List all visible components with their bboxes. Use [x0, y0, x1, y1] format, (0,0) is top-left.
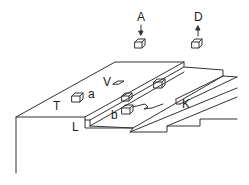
label-a: a	[88, 88, 95, 100]
label-K: K	[182, 98, 190, 110]
label-b: b	[111, 109, 118, 121]
block-b	[122, 108, 130, 114]
label-L: L	[72, 121, 79, 133]
v-marker	[113, 81, 124, 84]
path-arrow	[133, 104, 163, 109]
block-D	[192, 42, 199, 48]
label-V: V	[103, 76, 111, 88]
terrace-diagram	[0, 0, 249, 185]
label-T: T	[53, 100, 60, 112]
block-A	[135, 42, 142, 48]
step-2	[223, 76, 237, 77]
label-D: D	[194, 11, 203, 23]
label-A: A	[137, 11, 145, 23]
block-a	[72, 96, 80, 102]
